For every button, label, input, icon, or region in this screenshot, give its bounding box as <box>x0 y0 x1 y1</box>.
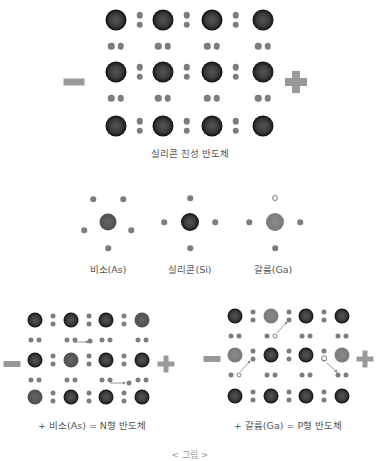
electron-icon <box>107 378 112 383</box>
silicon-atom-icon <box>28 353 43 368</box>
silicon-atom-icon <box>181 213 199 231</box>
electron-icon <box>143 338 148 343</box>
silicon-atom-icon <box>64 313 79 328</box>
electron-icon <box>265 95 272 102</box>
electron-icon <box>87 361 92 366</box>
silicon-atom-icon <box>202 62 223 83</box>
electron-icon <box>307 372 312 377</box>
electron-icon <box>122 391 127 396</box>
electron-icon <box>87 398 92 403</box>
electron-icon <box>65 338 70 343</box>
electron-icon <box>143 378 148 383</box>
arrow-icon <box>240 361 250 372</box>
electron-icon <box>120 196 126 202</box>
electron-icon <box>229 333 234 338</box>
electron-icon <box>36 338 41 343</box>
electron-icon <box>107 338 112 343</box>
electron-icon <box>108 95 115 102</box>
gallium-atom-icon <box>264 309 279 324</box>
silicon-atom-icon <box>99 353 114 368</box>
silicon-atom-icon <box>299 309 314 324</box>
electron-icon <box>122 398 127 403</box>
electron-icon <box>212 219 218 225</box>
electron-icon <box>51 398 56 403</box>
electron-icon <box>255 43 262 50</box>
arrow-icon <box>327 363 337 372</box>
arrow-icon <box>277 322 287 333</box>
electron-icon <box>72 378 77 383</box>
silicon-atom-icon <box>135 353 150 368</box>
electron-icon <box>136 64 143 71</box>
electron-icon <box>122 361 127 366</box>
silicon-atom-icon <box>28 313 43 328</box>
gallium-atom-icon <box>266 213 284 231</box>
electron-icon <box>36 378 41 383</box>
silicon-atom-icon <box>153 116 174 137</box>
electron-icon <box>51 314 56 319</box>
electron-icon <box>65 378 70 383</box>
electron-icon <box>187 195 193 201</box>
electron-icon <box>272 245 278 251</box>
electron-icon <box>155 95 162 102</box>
silicon-atom-icon <box>99 313 114 328</box>
electron-icon <box>214 43 221 50</box>
silicon-atom-icon <box>106 10 127 31</box>
electron-icon <box>322 397 327 402</box>
electron-icon <box>118 43 125 50</box>
electron-icon <box>236 333 241 338</box>
electron-icon <box>287 356 292 361</box>
electron-icon <box>336 372 341 377</box>
silicon-atom-icon <box>228 309 243 324</box>
electron-icon <box>136 338 141 343</box>
hole-icon <box>272 195 278 201</box>
electron-icon <box>251 349 256 354</box>
electron-icon <box>128 227 134 233</box>
electron-icon <box>343 333 348 338</box>
electron-icon <box>297 219 303 225</box>
silicon-atom-icon <box>299 389 314 404</box>
silicon-atom-icon <box>253 62 274 83</box>
electron-icon <box>87 321 92 326</box>
electron-icon <box>155 43 162 50</box>
electron-icon <box>122 321 127 326</box>
electron-icon <box>183 128 190 135</box>
electron-icon <box>136 378 141 383</box>
electron-icon <box>300 333 305 338</box>
electron-icon <box>251 317 256 322</box>
silicon-atom-icon <box>253 10 274 31</box>
electron-icon <box>118 95 125 102</box>
silicon-atom-icon <box>202 116 223 137</box>
electron-icon <box>322 349 327 354</box>
electron-icon <box>136 12 143 19</box>
silicon-atom-icon <box>264 348 279 363</box>
arsenic-atom-icon <box>64 353 79 368</box>
electron-icon <box>183 74 190 81</box>
electron-icon <box>343 372 348 377</box>
electron-icon <box>136 22 143 29</box>
electron-icon <box>165 95 172 102</box>
silicon-atom-icon <box>335 389 350 404</box>
electron-icon <box>87 354 92 359</box>
silicon-atom-icon <box>106 116 127 137</box>
electron-icon <box>251 397 256 402</box>
electron-icon <box>29 378 34 383</box>
electron-icon <box>272 372 277 377</box>
gallium-atom-icon <box>335 348 350 363</box>
electron-icon <box>29 338 34 343</box>
electron-icon <box>232 64 239 71</box>
electron-icon <box>122 314 127 319</box>
electron-icon <box>105 245 111 251</box>
electron-icon <box>246 219 252 225</box>
electron-icon <box>255 95 262 102</box>
electron-icon <box>204 43 211 50</box>
electron-icon <box>265 372 270 377</box>
electron-icon <box>108 43 115 50</box>
electron-icon <box>232 118 239 125</box>
electron-icon <box>300 372 305 377</box>
electron-icon <box>183 64 190 71</box>
electron-icon <box>183 118 190 125</box>
electron-icon <box>322 310 327 315</box>
arsenic-atom-icon <box>100 214 117 231</box>
electron-icon <box>287 317 292 322</box>
electron-icon <box>251 310 256 315</box>
